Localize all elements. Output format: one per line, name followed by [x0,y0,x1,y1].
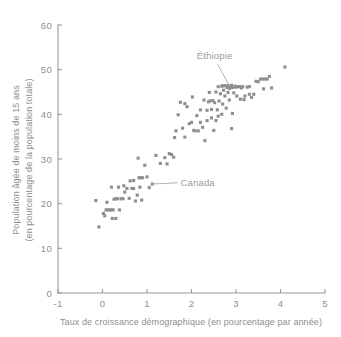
data-point [250,96,253,99]
data-point [231,112,234,115]
annotations-group: ÉthiopieCanada [152,50,232,187]
y-tick-label-0: 0 [46,288,52,299]
data-point [114,217,117,220]
data-point [208,91,211,94]
data-point [134,199,137,202]
data-point [103,214,106,217]
data-point [232,91,235,94]
scatter-plot-figure: -1012345 0102030405060 ÉthiopieCanada Ta… [0,0,341,337]
data-point [210,116,213,119]
data-point [219,92,222,95]
data-point [199,121,202,124]
data-point [239,98,242,101]
data-point [195,114,198,117]
data-point [129,179,132,182]
axes-group [58,25,325,293]
x-tick-label-5: 4 [278,298,284,309]
data-point [137,157,140,160]
data-point [181,127,184,130]
data-point [257,80,260,83]
x-ticks-group: -1012345 [53,289,327,309]
data-point [231,86,234,89]
data-point [145,175,148,178]
data-point [194,129,197,132]
data-point [202,98,205,101]
data-point [212,129,215,132]
annotation-label-canada: Canada [180,177,215,188]
data-point [191,95,194,98]
y-axis-title-line2: (en pourcentage de la population totale) [24,78,34,241]
data-point [228,98,231,101]
data-point [123,191,126,194]
y-tick-label-6: 60 [41,20,52,31]
y-tick-label-5: 50 [41,64,52,75]
data-point [122,184,125,187]
data-point [210,108,213,111]
data-point [218,99,221,102]
annotation-leader-line [152,183,177,184]
data-point [105,201,108,204]
data-point [183,136,186,139]
data-point [221,103,224,106]
data-point [177,113,180,116]
y-tick-label-4: 40 [41,109,52,120]
y-tick-label-2: 20 [41,198,52,209]
data-points-group [94,65,286,228]
data-point [154,154,157,157]
data-point [223,94,226,97]
data-point [183,102,186,105]
data-point [242,98,245,101]
data-point [230,127,233,130]
data-point [241,85,244,88]
data-point [213,101,216,104]
x-tick-label-1: 0 [100,298,106,309]
x-tick-label-4: 3 [233,298,239,309]
data-point [217,85,220,88]
data-point [222,89,225,92]
data-point [206,109,209,112]
data-point [132,187,135,190]
data-point [201,126,204,129]
data-point [140,199,143,202]
data-point [128,197,131,200]
data-point [132,179,135,182]
data-point [190,121,193,124]
data-point [224,84,227,87]
x-axis-title: Taux de croissance démographique (en pou… [60,317,322,327]
annotation-label-éthiopie: Éthiopie [197,50,233,61]
y-ticks-group: 0102030405060 [41,20,62,299]
data-point [179,101,182,104]
data-point [148,186,151,189]
data-point [112,208,115,211]
data-point [113,198,116,201]
data-point [174,129,177,132]
data-point [138,186,141,189]
data-point [266,78,269,81]
data-point [217,115,220,118]
data-point [206,119,209,122]
data-point [243,94,246,97]
y-tick-label-1: 10 [41,243,52,254]
data-point [165,162,168,165]
x-tick-label-6: 5 [322,298,328,309]
data-point [94,199,97,202]
data-point [216,108,219,111]
data-point [248,85,251,88]
data-point [118,208,121,211]
data-point [97,225,100,228]
x-tick-label-0: -1 [53,298,62,309]
data-point [117,186,120,189]
data-point [225,107,228,110]
y-axis-title-line1: Population âgée de moins de 15 ans [11,85,21,235]
data-point [110,186,113,189]
data-point [214,119,217,122]
data-point [172,156,175,159]
data-point [220,113,223,116]
x-tick-label-3: 2 [189,298,195,309]
data-point [121,197,124,200]
data-point [262,87,265,90]
data-point [143,164,146,167]
data-point [186,105,189,108]
data-point [270,86,273,89]
data-point [111,217,114,220]
